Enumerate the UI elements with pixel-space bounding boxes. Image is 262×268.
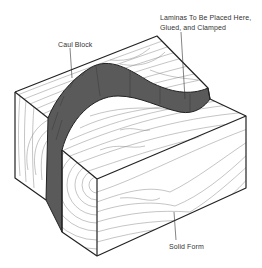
- form-step-edge: [62, 99, 246, 256]
- bending-form-illustration: [0, 0, 262, 268]
- form-corner-edge: [62, 150, 97, 256]
- form-top-grain: [60, 100, 250, 174]
- lamina-slot: [46, 63, 210, 232]
- solid-form-label: Solid Form: [169, 242, 204, 251]
- laminas-label-line2: Glued, and Clamped: [160, 23, 226, 32]
- caul-end-grain: [19, 96, 49, 188]
- caul-block-label: Caul Block: [58, 40, 92, 49]
- caul-left-edge: [15, 92, 46, 200]
- form-top-edge: [97, 116, 246, 179]
- laminas-label-line1: Laminas To Be Placed Here,: [160, 13, 251, 22]
